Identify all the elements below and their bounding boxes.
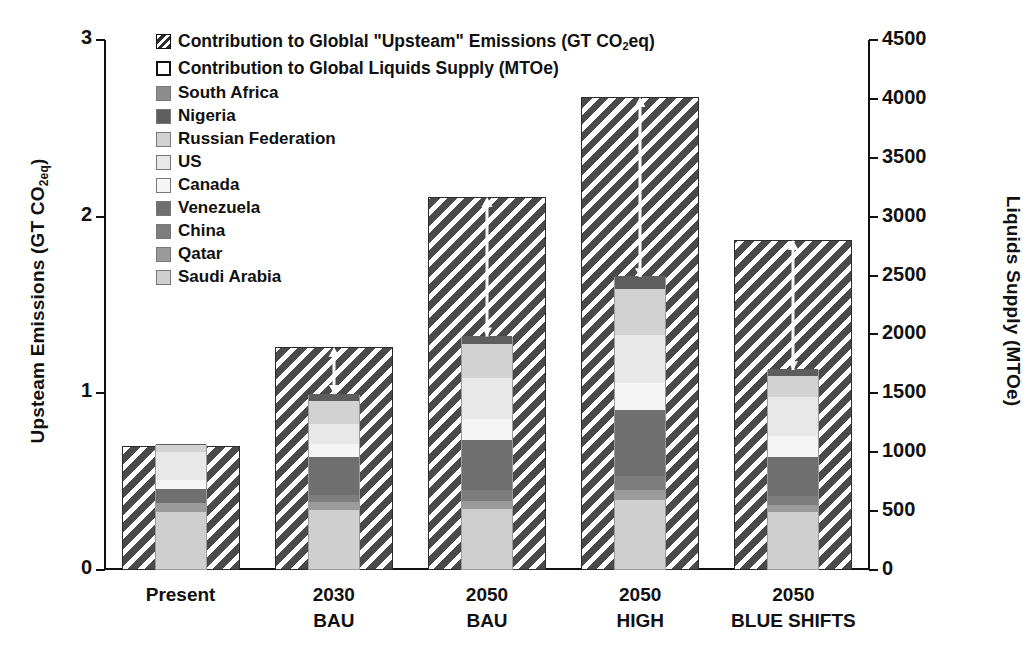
stack-segment bbox=[462, 490, 512, 501]
stack-segment bbox=[309, 401, 359, 425]
stack-segment bbox=[768, 496, 818, 505]
growth-arrow-icon bbox=[786, 240, 800, 370]
stack-segment bbox=[156, 503, 206, 512]
right-axis-title: Liquids Supply (MTOe) bbox=[1002, 131, 1023, 471]
right-tick-mark bbox=[869, 39, 878, 41]
left-tick-label: 1 bbox=[52, 379, 92, 402]
liquids-stacked-bar[interactable] bbox=[767, 370, 819, 570]
stack-segment bbox=[309, 502, 359, 510]
legend-label-country: US bbox=[178, 152, 202, 172]
x-tick-line: 2050 bbox=[683, 582, 903, 608]
right-tick-label: 500 bbox=[882, 498, 942, 521]
bar-group[interactable] bbox=[734, 40, 852, 570]
stack-segment bbox=[462, 501, 512, 509]
legend-item-country[interactable]: China bbox=[156, 220, 655, 242]
right-tick-label: 2000 bbox=[882, 321, 942, 344]
stack-segment bbox=[768, 512, 818, 569]
left-tick-label: 0 bbox=[52, 556, 92, 579]
stack-segment bbox=[615, 289, 665, 335]
stack-segment bbox=[768, 397, 818, 436]
country-swatch-icon bbox=[156, 224, 171, 239]
stack-segment bbox=[156, 489, 206, 503]
right-tick-mark bbox=[869, 157, 878, 159]
stack-segment bbox=[615, 410, 665, 476]
legend-label-country: South Africa bbox=[178, 83, 278, 103]
stack-segment bbox=[615, 383, 665, 410]
right-tick-mark bbox=[869, 392, 878, 394]
stack-segment bbox=[156, 445, 206, 452]
legend-label-country: Venezuela bbox=[178, 198, 260, 218]
right-tick-label: 3000 bbox=[882, 204, 942, 227]
stack-segment bbox=[615, 500, 665, 569]
left-tick-label: 3 bbox=[52, 26, 92, 49]
legend-label-country: Canada bbox=[178, 175, 239, 195]
liquids-stacked-bar[interactable] bbox=[461, 337, 513, 570]
liquids-stacked-bar[interactable] bbox=[614, 277, 666, 570]
stack-segment bbox=[156, 480, 206, 489]
stack-segment bbox=[462, 336, 512, 344]
legend-label-upstream-emissions: Contribution to Globlal "Upsteam" Emissi… bbox=[178, 31, 655, 52]
legend-label-country: Saudi Arabia bbox=[178, 267, 281, 287]
stack-segment bbox=[615, 335, 665, 383]
stack-segment bbox=[768, 505, 818, 512]
country-swatch-icon bbox=[156, 201, 171, 216]
legend-label-country: Russian Federation bbox=[178, 129, 336, 149]
legend-item-country[interactable]: Saudi Arabia bbox=[156, 266, 655, 288]
stack-segment bbox=[768, 457, 818, 496]
left-tick-label: 2 bbox=[52, 203, 92, 226]
stack-segment bbox=[309, 510, 359, 569]
stack-segment bbox=[462, 440, 512, 489]
x-tick-line: BLUE SHIFTS bbox=[683, 608, 903, 634]
liquids-stacked-bar[interactable] bbox=[155, 445, 207, 570]
chart-root: Upsteam Emissions (GT CO2eq) Liquids Sup… bbox=[0, 0, 1023, 670]
hatched-swatch-icon bbox=[156, 34, 171, 49]
stack-segment bbox=[309, 394, 359, 401]
right-tick-mark bbox=[869, 216, 878, 218]
country-swatch-icon bbox=[156, 155, 171, 170]
country-swatch-icon bbox=[156, 270, 171, 285]
legend-item-country[interactable]: Venezuela bbox=[156, 197, 655, 219]
legend-item-upstream-emissions[interactable]: Contribution to Globlal "Upsteam" Emissi… bbox=[156, 28, 655, 54]
legend-item-country[interactable]: Russian Federation bbox=[156, 128, 655, 150]
stack-segment bbox=[462, 344, 512, 378]
stack-segment bbox=[462, 509, 512, 569]
legend-label-liquids-supply: Contribution to Global Liquids Supply (M… bbox=[178, 58, 559, 79]
liquids-stacked-bar[interactable] bbox=[308, 395, 360, 570]
stack-segment bbox=[309, 457, 359, 496]
growth-arrow-icon bbox=[327, 347, 341, 394]
legend-item-country[interactable]: Nigeria bbox=[156, 105, 655, 127]
right-tick-label: 3500 bbox=[882, 145, 942, 168]
legend-item-country[interactable]: Qatar bbox=[156, 243, 655, 265]
left-axis-title: Upsteam Emissions (GT CO2eq) bbox=[27, 131, 49, 471]
legend-label-country: Nigeria bbox=[178, 106, 236, 126]
legend-item-country[interactable]: Canada bbox=[156, 174, 655, 196]
stack-segment bbox=[768, 376, 818, 397]
legend-label-country: Qatar bbox=[178, 244, 222, 264]
country-swatch-icon bbox=[156, 247, 171, 262]
right-tick-mark bbox=[869, 333, 878, 335]
stack-segment bbox=[156, 452, 206, 479]
right-tick-label: 4500 bbox=[882, 27, 942, 50]
legend-label-country: China bbox=[178, 221, 225, 241]
legend: Contribution to Globlal "Upsteam" Emissi… bbox=[156, 28, 655, 289]
right-tick-mark bbox=[869, 569, 878, 571]
country-swatch-icon bbox=[156, 132, 171, 147]
stack-segment bbox=[615, 476, 665, 490]
left-axis-title-sub: 2eq bbox=[37, 165, 51, 186]
right-axis-line bbox=[868, 40, 870, 570]
right-tick-label: 2500 bbox=[882, 263, 942, 286]
legend-item-country[interactable]: US bbox=[156, 151, 655, 173]
stack-segment bbox=[462, 419, 512, 440]
stack-segment bbox=[615, 490, 665, 499]
legend-item-liquids-supply[interactable]: Contribution to Global Liquids Supply (M… bbox=[156, 55, 655, 81]
stack-segment bbox=[156, 512, 206, 569]
right-tick-mark bbox=[869, 98, 878, 100]
right-tick-mark bbox=[869, 510, 878, 512]
country-legend: South AfricaNigeriaRussian FederationUSC… bbox=[156, 82, 655, 288]
hollow-swatch-icon bbox=[156, 61, 171, 76]
right-tick-label: 1500 bbox=[882, 380, 942, 403]
right-tick-mark bbox=[869, 275, 878, 277]
legend-item-country[interactable]: South Africa bbox=[156, 82, 655, 104]
right-tick-mark bbox=[869, 451, 878, 453]
stack-segment bbox=[768, 369, 818, 376]
